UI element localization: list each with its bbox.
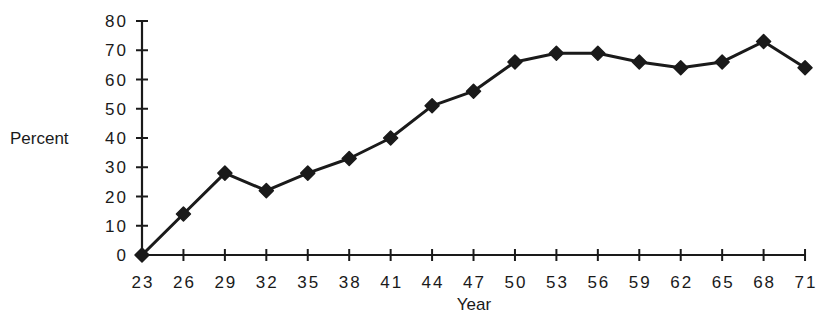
x-axis-title: Year: [457, 295, 492, 314]
x-tick-label: 38: [339, 273, 362, 292]
x-tick-label: 68: [753, 273, 776, 292]
x-tick-label: 23: [132, 273, 155, 292]
x-tick-label: 50: [504, 273, 527, 292]
data-point-marker: [674, 61, 688, 75]
x-tick-label: 35: [297, 273, 320, 292]
y-tick-label: 30: [105, 158, 128, 177]
data-point-marker: [342, 151, 356, 165]
x-tick-label: 44: [422, 273, 445, 292]
x-tick-label: 29: [214, 273, 237, 292]
y-tick-label: 40: [105, 129, 128, 148]
y-tick-label: 10: [105, 217, 128, 236]
series-layer: [135, 34, 812, 262]
chart-canvas: 01020304050607080 2326293235384144475053…: [0, 0, 826, 322]
x-tick-label: 41: [380, 273, 403, 292]
data-point-marker: [301, 166, 315, 180]
y-axis: 01020304050607080: [105, 12, 148, 265]
x-tick-label: 59: [629, 273, 652, 292]
data-point-marker: [798, 61, 812, 75]
data-point-marker: [591, 46, 605, 60]
data-point-marker: [259, 184, 273, 198]
x-tick-label: 26: [173, 273, 196, 292]
x-axis: 2326293235384144475053565962656871: [132, 249, 818, 292]
y-tick-label: 70: [105, 41, 128, 60]
data-point-marker: [715, 55, 729, 69]
x-tick-label: 71: [795, 273, 818, 292]
x-tick-label: 47: [463, 273, 486, 292]
data-point-marker: [632, 55, 646, 69]
y-axis-title: Percent: [10, 129, 69, 148]
data-point-marker: [757, 34, 771, 48]
x-tick-label: 56: [587, 273, 610, 292]
series-line: [142, 41, 805, 255]
line-chart: 01020304050607080 2326293235384144475053…: [0, 0, 826, 322]
x-tick-label: 62: [670, 273, 693, 292]
y-tick-label: 60: [105, 71, 128, 90]
x-tick-label: 53: [546, 273, 569, 292]
y-tick-label: 20: [105, 188, 128, 207]
y-tick-label: 80: [105, 12, 128, 31]
data-point-marker: [549, 46, 563, 60]
x-tick-label: 32: [256, 273, 279, 292]
x-tick-label: 65: [712, 273, 735, 292]
y-tick-label: 0: [117, 246, 128, 265]
y-tick-label: 50: [105, 100, 128, 119]
